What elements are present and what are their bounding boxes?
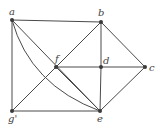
node-label-e: e bbox=[97, 113, 103, 124]
edge-a-b bbox=[12, 20, 101, 22]
nodes bbox=[10, 18, 147, 113]
node-b bbox=[99, 20, 103, 24]
edge-f-e bbox=[56, 67, 100, 111]
labels: abcdefg' bbox=[8, 6, 155, 124]
node-label-c: c bbox=[149, 62, 155, 73]
graph-diagram: abcdefg' bbox=[0, 0, 163, 129]
node-label-d: d bbox=[103, 55, 109, 66]
node-label-a: a bbox=[9, 6, 15, 17]
edges bbox=[12, 20, 145, 111]
node-f bbox=[54, 65, 58, 69]
edge-c-e bbox=[100, 67, 145, 111]
node-a bbox=[10, 18, 14, 22]
node-c bbox=[143, 65, 147, 69]
edge-d-e bbox=[100, 67, 101, 111]
node-label-g: g' bbox=[8, 113, 17, 124]
node-label-b: b bbox=[98, 7, 104, 18]
